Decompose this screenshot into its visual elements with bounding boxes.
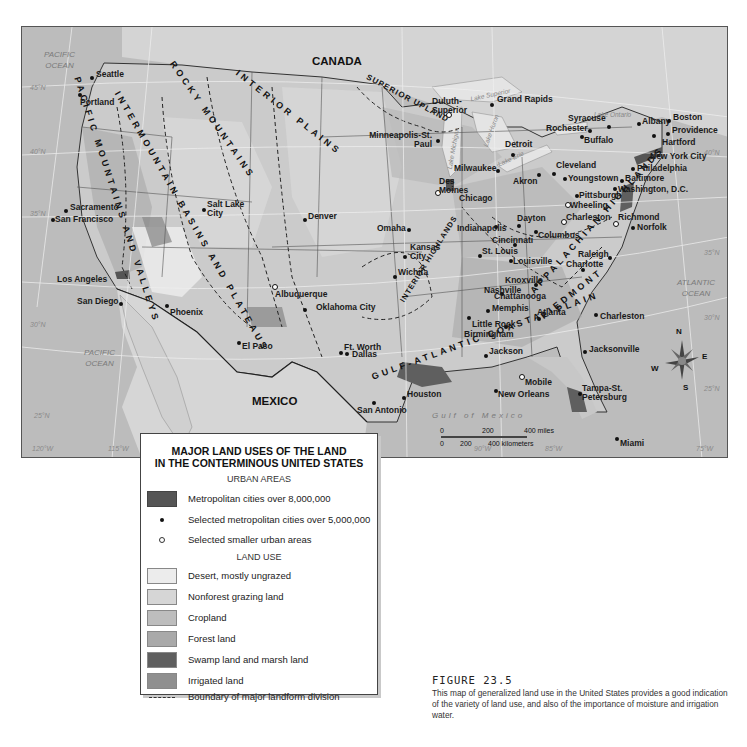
lon-label-115: 115°W (108, 445, 129, 452)
lat-label-45: 45°N (30, 84, 46, 91)
city-label-jacksonville: Jacksonville (589, 344, 640, 354)
compass-e: E (702, 352, 707, 361)
city-label-new-york: New York City (650, 151, 706, 161)
city-label-louisville: Louisville (513, 256, 552, 266)
city-dot-hartford (652, 134, 656, 138)
cropland-swatch-icon (147, 610, 177, 626)
city-label-washington: Washington, D.C. (618, 184, 688, 194)
grazing-swatch-icon (147, 589, 177, 605)
city-label-rochester: Rochester (546, 123, 588, 133)
city-label-pittsburgh: Pittsburgh (579, 190, 622, 200)
city-dot-syracuse (607, 125, 611, 129)
legend-row-cropland: Cropland (147, 610, 377, 627)
city-label-st-louis: St. Louis (482, 246, 518, 256)
city-label-buffalo: Buffalo (584, 135, 613, 145)
city-dot-albany (637, 122, 641, 126)
legend-row-grazing: Nonforest grazing land (147, 589, 377, 606)
lon-label-75: 75°W (696, 445, 713, 452)
city-dot-baltimore (620, 179, 624, 183)
ocean-label-pacific-south: PACIFICOCEAN (84, 347, 115, 369)
swamp-swatch-icon (147, 652, 177, 668)
city-label-knoxville: Knoxville (505, 275, 543, 285)
lat-label-35: 35°N (30, 210, 46, 217)
compass-w: W (651, 364, 659, 373)
city-label-milwaukee: Milwaukee (454, 163, 497, 173)
lat-label-30-east: 30°N (704, 314, 720, 321)
scale-km-0: 0 (440, 440, 444, 447)
metro-swatch-icon (147, 491, 177, 507)
city-label-norfolk: Norfolk (637, 222, 667, 232)
city-label-atlanta: Atlanta (537, 307, 566, 317)
city-label-akron: Akron (513, 176, 538, 186)
city-dot-oklahoma-city (303, 308, 307, 312)
city-label-new-orleans: New Orleans (498, 389, 550, 399)
city-dot-kansas-city (403, 255, 407, 259)
city-dot-omaha (407, 228, 411, 232)
city-dot-rochester (588, 129, 592, 133)
city-dot-sacramento (64, 209, 68, 213)
city-label-hartford: Hartford (662, 137, 696, 147)
city-label-salt-lake: Salt Lake City (207, 200, 245, 218)
legend-row-metro-8m: Metropolitan cities over 8,000,000 (147, 491, 377, 508)
scale-km-200: 200 (460, 440, 472, 447)
city-dot-memphis (486, 309, 490, 313)
city-label-charleston-wv: Charleston (566, 212, 610, 222)
city-label-richmond: Richmond (618, 212, 660, 222)
city-label-baltimore: Baltimore (625, 173, 664, 183)
figure-description: This map of generalized land use in the … (432, 688, 732, 721)
legend-row-forest: Forest land (147, 631, 377, 648)
land-use-map: CANADA MEXICO PACIFICOCEAN PACIFICOCEAN … (21, 26, 728, 458)
city-label-denver: Denver (308, 211, 337, 221)
city-label-portland: Portland (80, 97, 114, 107)
city-label-chicago: Chicago (459, 193, 493, 203)
city-label-kansas-city: Kansas City (410, 243, 450, 261)
dashed-line-icon (149, 697, 175, 698)
legend-label: Forest land (188, 633, 236, 644)
filled-dot-icon (160, 518, 164, 522)
country-label-canada: CANADA (312, 55, 362, 67)
scale-miles-400: 400 miles (524, 427, 554, 434)
ocean-label-pacific-north: PACIFICOCEAN (44, 49, 75, 71)
city-label-raleigh: Raleigh (578, 249, 609, 259)
city-dot-jacksonville (583, 350, 587, 354)
legend-row-smaller-urban: Selected smaller urban areas (147, 532, 377, 549)
lat-label-40: 40°N (30, 148, 46, 155)
city-label-youngstown: Youngstown (568, 173, 618, 183)
city-label-los-angeles: Los Angeles (57, 274, 107, 284)
compass-s: S (683, 383, 688, 392)
legend-row-swamp: Swamp land and marsh land (147, 652, 377, 669)
city-dot-dallas (345, 352, 349, 356)
city-dot-philadelphia (631, 167, 635, 171)
city-label-providence: Providence (672, 125, 718, 135)
legend-urban-heading: URBAN AREAS (141, 474, 377, 484)
city-label-tampa: Tampa-St. Petersburg (582, 384, 642, 402)
irrigated-swatch-icon (147, 673, 177, 689)
city-label-birmingham: Birmingham (464, 329, 514, 339)
city-dot-san-diego (119, 302, 123, 306)
city-label-wheeling: Wheeling (570, 200, 608, 210)
legend-label: Swamp land and marsh land (188, 654, 308, 665)
city-label-minneapolis: Minneapolis-St. Paul (362, 131, 432, 149)
city-label-chattanooga: Chattanooga (494, 291, 546, 301)
city-dot-salt-lake (202, 208, 206, 212)
city-label-jackson: Jackson (489, 346, 523, 356)
city-label-miami: Miami (620, 438, 644, 448)
city-label-albuquerque: Albuquerque (275, 289, 327, 299)
city-dot-washington (613, 187, 617, 191)
city-dot-dayton (517, 224, 521, 228)
city-label-philadelphia: Philadelphia (637, 163, 687, 173)
ocean-label-atlantic: ATLANTICOCEAN (677, 277, 715, 299)
city-label-omaha: Omaha (377, 223, 406, 233)
city-dot-norfolk (631, 226, 635, 230)
country-label-mexico: MEXICO (252, 395, 297, 407)
compass-rose-icon: N S E W (657, 335, 707, 390)
city-label-syracuse: Syracuse (568, 113, 606, 123)
legend-land-heading: LAND USE (141, 552, 377, 562)
city-dot-atlanta (537, 317, 541, 321)
legend-label: Nonforest grazing land (188, 591, 284, 602)
city-label-cincinnati: Cincinnati (492, 235, 533, 245)
city-dot-detroit (511, 153, 515, 157)
city-dot-minneapolis (436, 139, 440, 143)
scale-miles-0: 0 (440, 427, 444, 434)
open-dot-icon (159, 537, 165, 543)
